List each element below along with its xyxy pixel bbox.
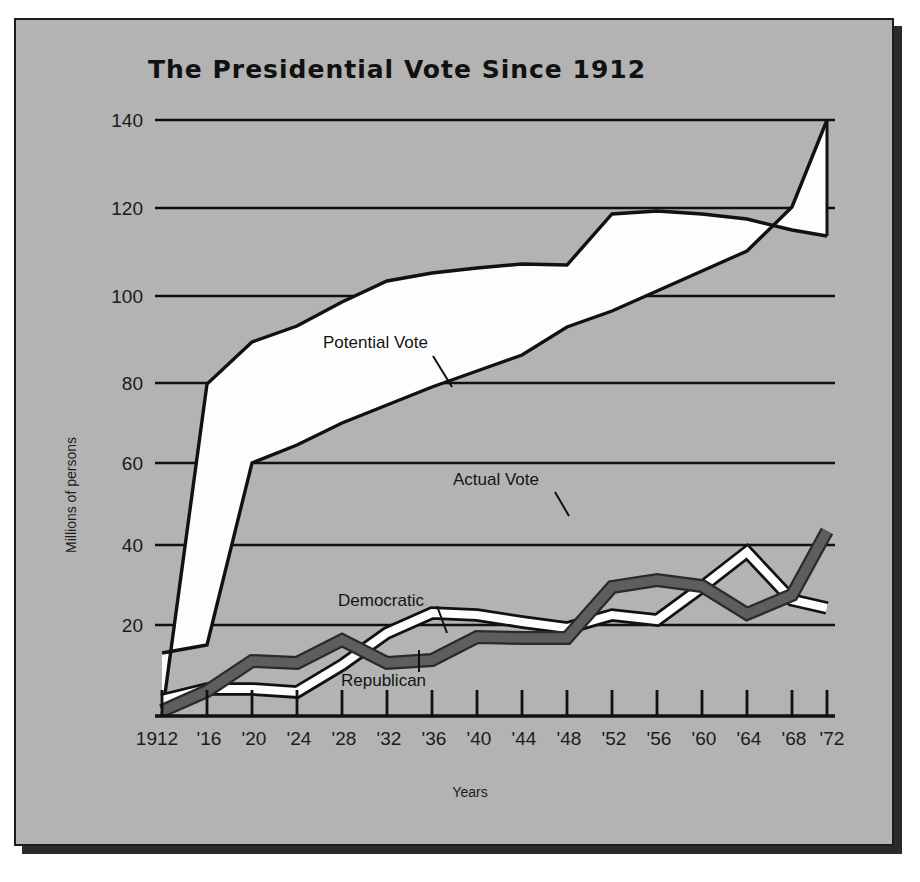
x-tick-label: '24	[287, 728, 312, 749]
y-tick-label: 60	[122, 453, 143, 474]
potential-actual-band	[162, 120, 827, 716]
party-lines	[162, 531, 827, 711]
x-tick-label: '64	[737, 728, 762, 749]
x-tick-label: '48	[557, 728, 582, 749]
y-axis-tick-labels: 140 120 100 80 60 40 20	[111, 110, 143, 636]
y-tick-label: 80	[122, 373, 143, 394]
leader-line-actual-vote	[555, 492, 569, 516]
y-tick-label: 120	[111, 198, 143, 219]
page-title: The Presidential Vote Since 1912	[148, 55, 646, 84]
x-tick-label: '60	[692, 728, 717, 749]
annotation-actual-vote: Actual Vote	[453, 470, 539, 489]
chart-figure: The Presidential Vote Since 1912 140 120…	[0, 0, 920, 882]
x-tick-label: '68	[782, 728, 807, 749]
x-tick-label: '72	[820, 728, 845, 749]
x-tick-label: '32	[377, 728, 402, 749]
annotation-potential-vote: Potential Vote	[323, 333, 428, 352]
x-tick-label: '20	[242, 728, 267, 749]
y-tick-label: 40	[122, 535, 143, 556]
x-tick-label: '52	[602, 728, 627, 749]
y-tick-label: 140	[111, 110, 143, 131]
y-tick-label: 20	[122, 615, 143, 636]
y-axis-title: Millions of persons	[63, 437, 79, 553]
x-axis-title: Years	[452, 784, 487, 800]
vote-band-area	[162, 120, 827, 716]
annotation-democratic: Democratic	[338, 591, 424, 610]
x-axis-tick-labels: 1912 '16 '20 '24 '28 '32 '36 '40 '44 '48…	[136, 728, 845, 749]
x-tick-label: '44	[512, 728, 537, 749]
x-tick-label: '40	[467, 728, 492, 749]
x-tick-label: '16	[197, 728, 222, 749]
y-tick-label: 100	[111, 286, 143, 307]
x-tick-label: '36	[422, 728, 447, 749]
annotation-republican: Republican	[341, 671, 426, 690]
presidential-vote-chart: The Presidential Vote Since 1912 140 120…	[0, 0, 920, 882]
x-tick-label: '28	[332, 728, 357, 749]
x-tick-label: 1912	[136, 728, 178, 749]
x-tick-label: '56	[647, 728, 672, 749]
